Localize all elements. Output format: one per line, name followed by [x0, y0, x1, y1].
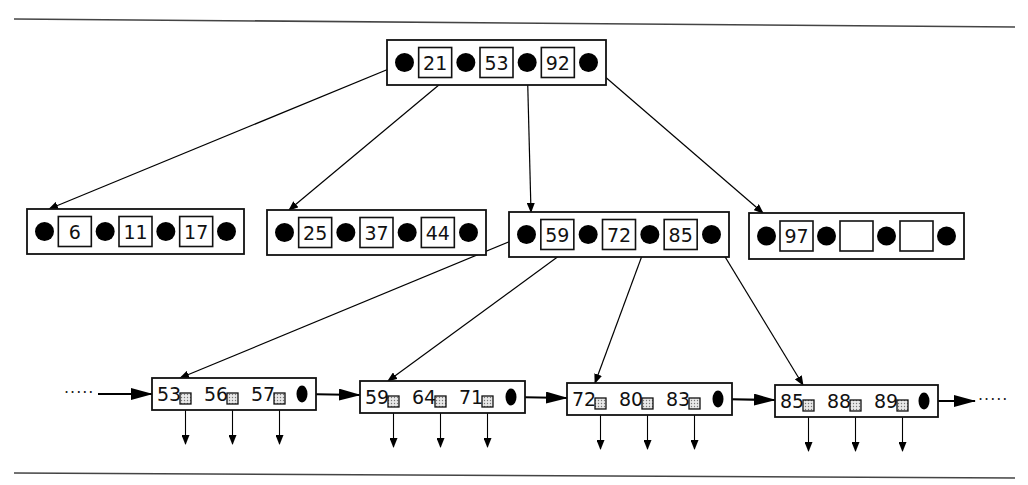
record-pointer-icon: [850, 400, 861, 411]
pointer-dot: [579, 53, 598, 72]
record-pointer-icon: [595, 398, 606, 409]
key-value: 6: [69, 221, 81, 243]
b-plus-tree-diagram: ·········· 21539261117253744597285975356…: [0, 0, 1028, 485]
leaf-key: 89: [874, 390, 898, 412]
record-pointer-icon: [482, 396, 493, 407]
pointer-dot: [395, 53, 414, 72]
leaf-key: 56: [204, 383, 228, 405]
tree-canvas: ·········· 21539261117253744597285975356…: [0, 0, 1028, 485]
child-pointer-edge: [49, 63, 405, 210]
pointer-dot: [96, 222, 115, 241]
record-pointer-icon: [803, 400, 814, 411]
leaf-node-4: 858889: [775, 385, 938, 417]
key-box: [840, 221, 873, 251]
left-continuation-dots: ·····: [64, 383, 94, 402]
pointer-dot: [456, 53, 475, 72]
record-pointer-icon: [274, 393, 285, 404]
pointer-dot: [702, 225, 721, 244]
internal-node-3: 597285: [509, 212, 729, 257]
leaf-key: 80: [619, 388, 643, 410]
leaf-node-2: 596471: [360, 381, 525, 413]
key-value: 21: [423, 52, 447, 74]
root-node: 215392: [387, 40, 606, 85]
pointer-dot: [156, 222, 175, 241]
leaf-key: 59: [365, 386, 389, 408]
next-leaf-pointer: [919, 393, 930, 410]
record-pointer-icon: [897, 400, 908, 411]
key-value: 92: [546, 52, 570, 74]
next-leaf-pointer: [297, 386, 308, 403]
key-value: 37: [364, 222, 388, 244]
leaf-key: 57: [251, 383, 275, 405]
pointer-dot: [579, 225, 598, 244]
leaf-key: 53: [157, 383, 181, 405]
next-leaf-pointer: [713, 391, 724, 408]
pointer-dot: [640, 225, 659, 244]
key-value: 72: [607, 224, 631, 246]
record-pointer-icon: [689, 398, 700, 409]
key-value: 85: [669, 224, 693, 246]
key-value: 97: [784, 225, 808, 247]
pointer-dot: [336, 223, 355, 242]
pointer-dot: [817, 227, 836, 246]
pointer-dot: [217, 222, 236, 241]
leaf-node-3: 728083: [567, 383, 732, 415]
pointer-dot: [877, 227, 896, 246]
leaf-key: 88: [827, 390, 851, 412]
internal-node-4: 97: [749, 213, 964, 259]
pointer-dot: [757, 227, 776, 246]
pointer-dot: [275, 223, 294, 242]
leaf-key: 64: [412, 386, 436, 408]
pointer-dot: [459, 223, 478, 242]
leaf-pointer-edge: [180, 235, 527, 379]
pointer-dot: [35, 222, 54, 241]
pointer-dot: [937, 227, 956, 246]
next-leaf-pointer: [506, 389, 517, 406]
record-pointer-icon: [435, 396, 446, 407]
top-rule: [14, 19, 1015, 27]
key-value: 11: [123, 221, 147, 243]
key-value: 44: [426, 222, 450, 244]
right-continuation-dots: ·····: [978, 390, 1008, 409]
pointer-dot: [517, 225, 536, 244]
leaf-key: 72: [572, 388, 596, 410]
pointer-dot: [398, 223, 417, 242]
leaf-key: 85: [780, 390, 804, 412]
key-value: 17: [184, 221, 208, 243]
bottom-rule: [14, 473, 1015, 478]
leaf-key: 83: [666, 388, 690, 410]
leaf-node-1: 535657: [152, 378, 316, 410]
leaf-key: 71: [459, 386, 483, 408]
key-value: 53: [484, 52, 508, 74]
key-box: [900, 221, 933, 251]
key-value: 25: [303, 222, 327, 244]
record-pointer-icon: [388, 396, 399, 407]
record-pointer-icon: [642, 398, 653, 409]
internal-node-2: 253744: [267, 210, 486, 255]
pointer-dot: [518, 53, 537, 72]
record-pointer-icon: [180, 393, 191, 404]
record-pointer-icon: [227, 393, 238, 404]
child-pointer-edge: [589, 63, 764, 214]
key-value: 59: [545, 224, 569, 246]
tree-nodes: 2153926111725374459728597535657596471728…: [27, 40, 964, 417]
internal-node-1: 61117: [27, 209, 244, 254]
